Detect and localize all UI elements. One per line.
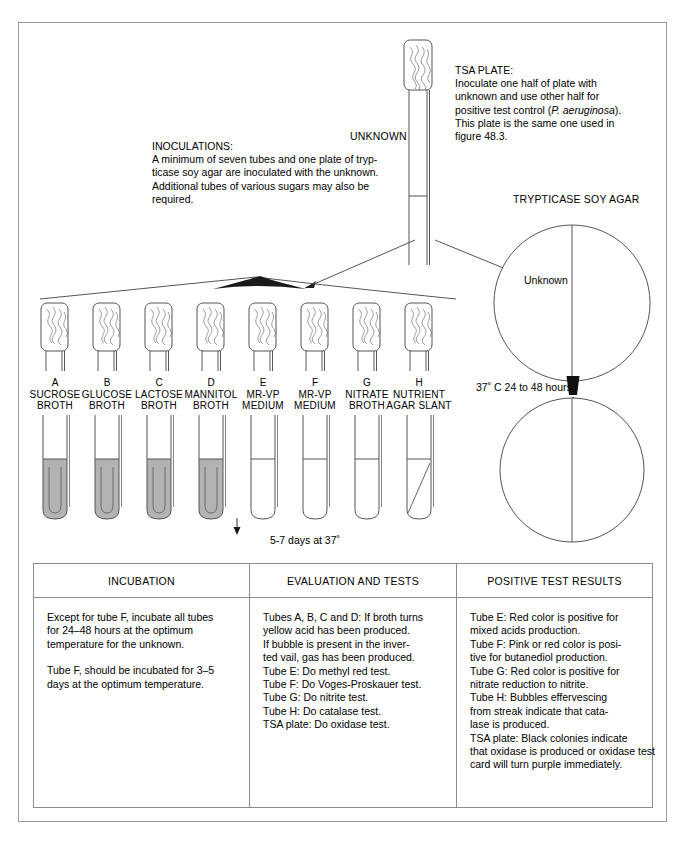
table-columns: INCUBATION Except for tube F, incubate a… [34, 564, 652, 807]
table-column-header-1: INCUBATION [34, 564, 249, 598]
table-text-line: ted vail, gas has been produced. [263, 651, 445, 664]
agar-plate-top-label: Unknown [524, 274, 568, 286]
inoculations-line3: Additional tubes of various sugars may a… [152, 180, 452, 193]
tube-medium-line2-h: AGAR SLANT [385, 400, 453, 412]
tsa-plate-line1: Inoculate one half of plate with [455, 77, 660, 90]
inoculations-note: INOCULATIONS: A minimum of seven tubes a… [152, 140, 452, 206]
table-column-header-2: EVALUATION AND TESTS [250, 564, 456, 598]
tube-incubation-arrow [227, 518, 247, 536]
table-text-line: Tubes A, B, C and D: If broth turns [263, 611, 445, 624]
table-text-line: that oxidase is produced or oxidase test [470, 745, 641, 758]
inoculations-line4: required. [152, 193, 452, 206]
table-text-line: If bubble is present in the inver- [263, 638, 445, 651]
table-column-body-1: Except for tube F, incubate all tubesfor… [34, 597, 249, 807]
table-text-line: Tube H: Bubbles effervescing [470, 691, 641, 704]
tsa-plate-line5: figure 48.3. [455, 130, 660, 143]
table-paragraph: Tube F, should be incubated for 3–5days … [47, 664, 238, 691]
tsa-plate-line3-post: ). [615, 104, 621, 116]
tsa-plate-line4: This plate is the same one used in [455, 117, 660, 130]
agar-heading: TRYPTICASE SOY AGAR [513, 193, 640, 205]
tube-label-h: H NUTRIENT AGAR SLANT [385, 377, 453, 412]
tsa-plate-note: TSA PLATE: Inoculate one half of plate w… [455, 64, 660, 143]
table-column-header-3: POSITIVE TEST RESULTS [457, 564, 652, 598]
figure-root: UNKNOWN TSA PLATE: Inoculate one half of… [0, 0, 685, 846]
tsa-plate-organism: P. aeruginosa [551, 104, 614, 116]
tsa-plate-line3: positive test control (P. aeruginosa). [455, 104, 660, 117]
table-text-line: Tube F, should be incubated for 3–5 [47, 664, 238, 677]
tube-row-brace [38, 275, 458, 305]
results-table: INCUBATION Except for tube F, incubate a… [33, 563, 653, 808]
table-column-1: INCUBATION Except for tube F, incubate a… [34, 564, 249, 807]
table-text-line: Tube G: Do nitrite test. [263, 691, 445, 704]
table-text-line: card will turn purple immediately. [470, 758, 641, 771]
table-text-line: Tube F: Do Voges-Proskauer test. [263, 678, 445, 691]
table-paragraph: Tubes A, B, C and D: If broth turnsyello… [263, 611, 445, 732]
table-text-line: Tube F: Pink or red color is posi- [470, 638, 641, 651]
table-column-3: POSITIVE TEST RESULTS Tube E: Red color … [457, 564, 652, 807]
table-text-line: temperature for the unknown. [47, 638, 238, 651]
plate-incubation-label: 37˚ C 24 to 48 hours [476, 381, 572, 393]
tube-labels-row: A SUCROSE BROTH B GLUCOSE BROTH C LACTOS… [30, 377, 460, 417]
table-text-line: days at the optimum temperature. [47, 678, 238, 691]
table-text-line: yellow acid has been produced. [263, 624, 445, 637]
table-text-line: from streak indicate that cata- [470, 705, 641, 718]
table-text-line: Tube E: Do methyl red test. [263, 665, 445, 678]
table-text-line: mixed acids production. [470, 624, 641, 637]
table-column-body-2: Tubes A, B, C and D: If broth turnsyello… [250, 597, 456, 807]
table-column-2: EVALUATION AND TESTS Tubes A, B, C and D… [250, 564, 456, 807]
table-text-line: for 24–48 hours at the optimum [47, 624, 238, 637]
tube-incubation-label: 5-7 days at 37˚ [270, 534, 340, 546]
table-text-line: TSA plate: Black colonies indicate [470, 732, 641, 745]
tsa-plate-line2: unknown and use other half for [455, 90, 660, 103]
inoculations-title: INOCULATIONS: [152, 140, 452, 153]
tsa-plate-line3-pre: positive test control ( [455, 104, 551, 116]
table-paragraph: Tube E: Red color is positive formixed a… [470, 611, 641, 772]
inoculations-line1: A minimum of seven tubes and one plate o… [152, 153, 452, 166]
table-text-line: Tube H: Do catalase test. [263, 705, 445, 718]
tube-medium-line1-h: NUTRIENT [385, 389, 453, 401]
tube-letter-h: H [385, 377, 453, 389]
table-text-line: TSA plate: Do oxidase test. [263, 718, 445, 731]
table-paragraph: Except for tube F, incubate all tubesfor… [47, 611, 238, 651]
table-text-line: lase is produced. [470, 718, 641, 731]
table-text-line: Except for tube F, incubate all tubes [47, 611, 238, 624]
table-column-body-3: Tube E: Red color is positive formixed a… [457, 597, 652, 807]
table-text-line: Tube G: Red color is positive for [470, 665, 641, 678]
inoculations-line2: ticase soy agar are inoculated with the … [152, 166, 452, 179]
agar-plate-top [492, 223, 652, 383]
agar-plate-bottom [492, 398, 652, 548]
table-text-line: nitrate reduction to nitrite. [470, 678, 641, 691]
table-text-line: Tube E: Red color is positive for [470, 611, 641, 624]
tsa-plate-title: TSA PLATE: [455, 64, 660, 77]
table-text-line: tive for butanediol production. [470, 651, 641, 664]
